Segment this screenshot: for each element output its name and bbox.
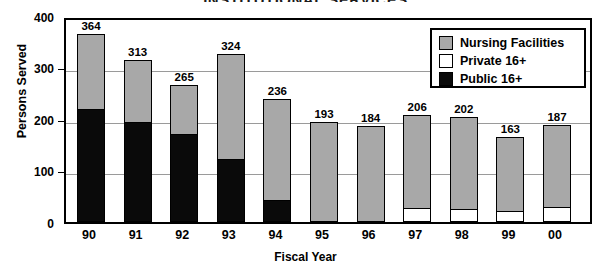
bar-segment-95-gray — [310, 122, 338, 222]
y-tick-label-300: 300 — [10, 63, 54, 75]
legend-swatch-icon-nursing-facilities — [439, 36, 453, 50]
bar-value-label-99: 163 — [483, 123, 537, 135]
x-tick-label-00: 00 — [528, 228, 582, 242]
legend-swatch-icon-public-16plus — [439, 72, 453, 86]
bar-segment-00-gray — [543, 125, 571, 208]
bar-value-label-90: 364 — [64, 20, 118, 32]
bar-segment-94-gray — [263, 99, 291, 201]
bar-segment-92-black — [170, 134, 198, 222]
bar-segment-00-white — [543, 207, 571, 222]
chart-title: INSTITUTIONAL SERVICES — [0, 0, 611, 2]
bar-value-label-92: 265 — [157, 71, 211, 83]
bar-segment-93-gray — [217, 54, 245, 160]
bar-value-label-00: 187 — [530, 111, 584, 123]
bar-segment-91-black — [124, 122, 152, 222]
bar-value-label-91: 313 — [111, 46, 165, 58]
bar-segment-99-gray — [496, 137, 524, 212]
y-axis-label: Persons Served — [15, 21, 29, 161]
bar-segment-98-white — [450, 209, 478, 222]
bar-segment-92-gray — [170, 85, 198, 136]
bar-segment-93-black — [217, 159, 245, 222]
y-tick-label-200: 200 — [10, 115, 54, 127]
bar-segment-90-black — [77, 109, 105, 222]
bar-value-label-93: 324 — [204, 40, 258, 52]
bar-value-label-96: 184 — [344, 112, 398, 124]
legend-label-private-16plus: Private 16+ — [460, 54, 526, 68]
legend-item-nursing-facilities: Nursing Facilities — [439, 34, 578, 51]
legend-item-public-16plus: Public 16+ — [439, 70, 578, 87]
legend-label-nursing-facilities: Nursing Facilities — [460, 36, 564, 50]
bar-segment-94-black — [263, 200, 291, 222]
bar-segment-90-gray — [77, 34, 105, 110]
legend: Nursing Facilities Private 16+ Public 16… — [430, 28, 586, 88]
y-tick-label-100: 100 — [10, 166, 54, 178]
bar-value-label-98: 202 — [437, 103, 491, 115]
bar-segment-91-gray — [124, 60, 152, 123]
y-tick-label-0: 0 — [10, 218, 54, 230]
x-axis-label: Fiscal Year — [0, 250, 611, 264]
bar-segment-97-white — [403, 208, 431, 222]
bar-segment-97-gray — [403, 115, 431, 209]
y-tick-label-400: 400 — [10, 12, 54, 24]
legend-label-public-16plus: Public 16+ — [460, 72, 522, 86]
bar-segment-98-gray — [450, 117, 478, 210]
chart-container: INSTITUTIONAL SERVICES Persons Served Fi… — [0, 0, 611, 273]
bar-segment-99-white — [496, 211, 524, 222]
legend-item-private-16plus: Private 16+ — [439, 52, 578, 69]
bar-value-label-94: 236 — [250, 85, 304, 97]
legend-swatch-icon-private-16plus — [439, 54, 453, 68]
bar-segment-96-gray — [357, 126, 385, 222]
